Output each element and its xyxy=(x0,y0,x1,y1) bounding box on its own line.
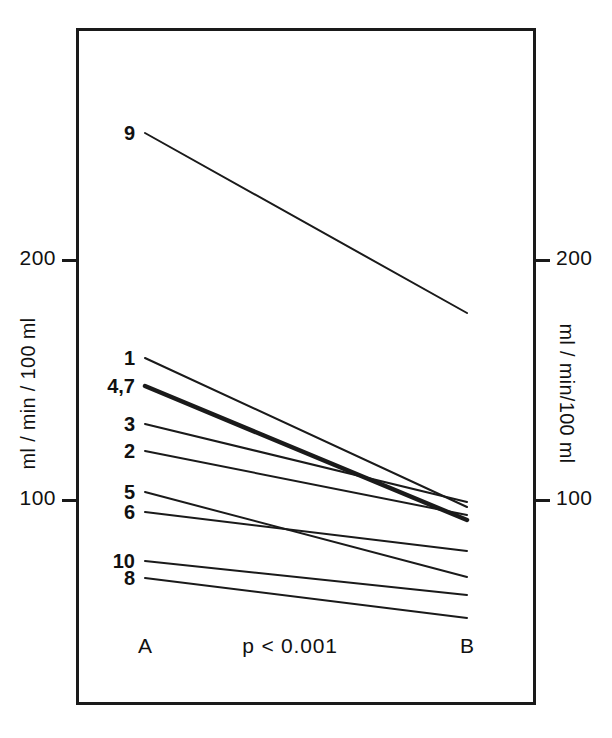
tick-mark-left-200 xyxy=(62,259,78,262)
group-b-label: B xyxy=(460,634,474,658)
y-axis-title-left: ml / min / 100 ml xyxy=(17,304,40,484)
series-label-8: 8 xyxy=(0,567,135,590)
plot-frame xyxy=(76,28,536,705)
y-axis-title-right: ml / min/100 ml xyxy=(555,304,578,484)
figure-canvas: 200100200100 914,73256108 ml / min / 100… xyxy=(0,0,612,738)
series-label-9: 9 xyxy=(0,122,135,145)
series-label-6: 6 xyxy=(0,501,135,524)
tick-mark-right-200 xyxy=(534,259,550,262)
tick-label-right-100: 100 xyxy=(556,486,593,510)
tick-label-right-200: 200 xyxy=(556,246,593,270)
group-a-label: A xyxy=(138,634,152,658)
tick-mark-right-100 xyxy=(534,499,550,502)
pvalue-annotation: p < 0.001 xyxy=(242,634,337,658)
tick-label-left-200: 200 xyxy=(19,246,56,270)
